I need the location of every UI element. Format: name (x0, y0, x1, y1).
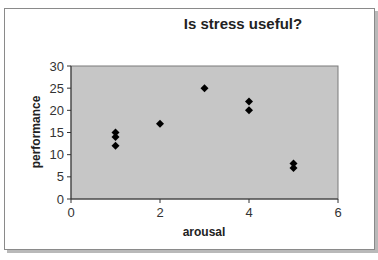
x-axis-title: arousal (183, 225, 226, 239)
y-tick-label: 15 (50, 125, 64, 140)
x-tick-label: 6 (334, 205, 341, 220)
x-tick-label: 0 (67, 205, 74, 220)
y-axis-title: performance (29, 95, 43, 168)
y-tick-label: 25 (50, 81, 64, 96)
y-tick-label: 30 (50, 59, 64, 74)
y-tick-label: 0 (57, 192, 64, 207)
y-axis: 051015202530 (50, 59, 71, 207)
x-tick-label: 2 (156, 205, 163, 220)
x-tick-label: 4 (245, 205, 252, 220)
scatter-chart: 051015202530 0246 performance arousal (0, 0, 378, 260)
x-axis: 0246 (67, 199, 341, 220)
y-tick-label: 10 (50, 147, 64, 162)
y-tick-label: 20 (50, 103, 64, 118)
y-tick-label: 5 (57, 169, 64, 184)
